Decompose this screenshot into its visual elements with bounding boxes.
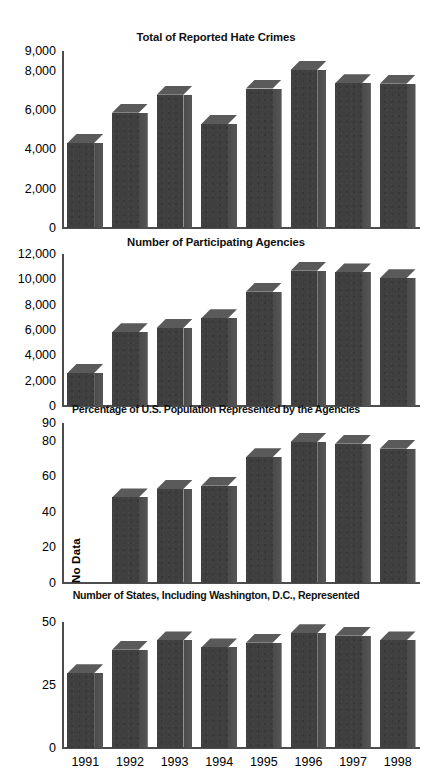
bar-top-face (157, 319, 193, 328)
bar-side-face (228, 486, 237, 583)
bar-front-face (246, 292, 273, 406)
y-tick-label: 8,000 (25, 299, 56, 311)
chart-panel-percentage-population: Percentage of U.S. Population Represente… (0, 403, 432, 589)
bar (380, 440, 416, 583)
no-data-annotation: No Data (70, 478, 82, 583)
y-tick-label: 50 (42, 616, 56, 628)
bar-side-face (94, 673, 103, 748)
y-axis-labels: 02,0004,0006,0008,00010,00012,000 (2, 252, 60, 410)
bar (157, 480, 193, 583)
bar (201, 309, 237, 406)
bar-front-face (380, 84, 407, 228)
plot-area: 02040608090 No Data (0, 419, 432, 587)
bar-side-face (183, 640, 192, 748)
bar-side-face (273, 89, 282, 228)
y-tick-label: 4,000 (25, 143, 56, 155)
y-axis-labels: 02040608090 (14, 419, 60, 587)
y-tick-label: 2,000 (25, 183, 56, 195)
chart-panel-total-hate-crimes: Total of Reported Hate Crimes 02,0004,00… (0, 31, 432, 236)
y-tick-label: 80 (42, 435, 56, 447)
bar-top-face (201, 115, 237, 124)
bar-top-face (380, 269, 416, 278)
y-tick-label: 4,000 (25, 349, 56, 361)
bar (335, 435, 371, 583)
bar-front-face (246, 457, 273, 583)
bar-side-face (362, 636, 371, 748)
bar-top-face (201, 477, 237, 486)
bar (201, 115, 237, 228)
bar-side-face (183, 328, 192, 406)
bar-top-face (157, 480, 193, 489)
bar (112, 323, 148, 406)
bar-top-face (112, 488, 148, 497)
bar-top-face (246, 448, 282, 457)
x-tick-label: 1998 (384, 755, 412, 769)
bar (380, 631, 416, 748)
x-tick-label: 1993 (161, 755, 189, 769)
bar-side-face (407, 84, 416, 228)
y-tick-label: 20 (42, 541, 56, 553)
y-tick-label: 9,000 (25, 45, 56, 57)
bar (246, 80, 282, 228)
bar-front-face (112, 332, 139, 406)
x-axis-labels: 19911992199319941995199619971998 (0, 755, 432, 773)
y-tick-label: 12,000 (18, 248, 56, 260)
y-tick-label: 2,000 (25, 375, 56, 387)
y-tick-label: 8,000 (25, 65, 56, 77)
x-tick-label: 1992 (116, 755, 144, 769)
bar-top-face (291, 624, 327, 633)
chart-panel-participating-agencies: Number of Participating Agencies 02,0004… (0, 236, 432, 413)
y-tick-label: 0 (49, 577, 56, 589)
bar (380, 75, 416, 228)
bar (246, 448, 282, 583)
bar-front-face (157, 328, 184, 406)
bar-series (63, 423, 420, 583)
bar-top-face (112, 641, 148, 650)
bar-side-face (317, 70, 326, 228)
bar-front-face (112, 650, 139, 748)
bar (335, 263, 371, 406)
x-tick-label: 1994 (205, 755, 233, 769)
bar (335, 627, 371, 748)
bar (291, 624, 327, 748)
bar-top-face (291, 262, 327, 271)
bar-side-face (407, 278, 416, 406)
y-tick-label: 0 (49, 742, 56, 754)
bar-front-face (157, 95, 184, 228)
bar-front-face (201, 647, 228, 748)
bar (201, 477, 237, 583)
bar (157, 631, 193, 748)
y-axis-labels: 02,0004,0006,0008,0009,000 (14, 47, 60, 232)
bar-top-face (201, 309, 237, 318)
bar-side-face (139, 113, 148, 228)
bar-side-face (362, 444, 371, 583)
bar-top-face (291, 433, 327, 442)
bar-front-face (201, 318, 228, 406)
bar-front-face (380, 640, 407, 748)
bar-series (63, 622, 420, 748)
bar-front-face (335, 83, 362, 228)
plot-area: 02,0004,0006,0008,0009,000 (0, 47, 432, 232)
bar-side-face (407, 640, 416, 748)
bar-front-face (67, 673, 94, 748)
bar-top-face (201, 638, 237, 647)
bar-front-face (246, 643, 273, 748)
bar-top-face (335, 263, 371, 272)
bar-front-face (380, 449, 407, 583)
bar (157, 319, 193, 406)
bar (157, 86, 193, 228)
y-tick-label: 60 (42, 470, 56, 482)
bar-side-face (362, 272, 371, 406)
bar-top-face (112, 323, 148, 332)
bar (67, 664, 103, 748)
bar-top-face (291, 61, 327, 70)
bar-side-face (183, 95, 192, 228)
plot-area: 02,0004,0006,0008,00010,00012,000 (0, 252, 432, 410)
bar-top-face (335, 74, 371, 83)
y-tick-label: 6,000 (25, 324, 56, 336)
bar-front-face (291, 271, 318, 406)
bar-front-face (380, 278, 407, 406)
bar-side-face (183, 489, 192, 583)
bar (201, 638, 237, 748)
bar-top-face (157, 631, 193, 640)
